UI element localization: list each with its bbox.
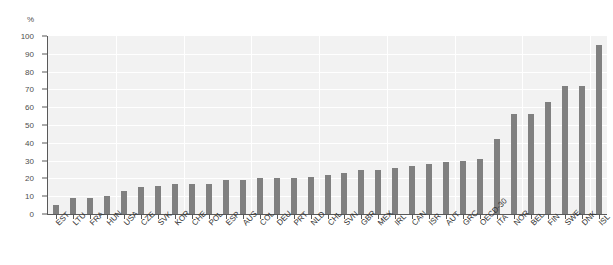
bar-esp[interactable]: [223, 180, 229, 214]
y-axis-tick-label: 20: [25, 174, 34, 183]
bar-chart: % 0102030405060708090100 ESTLTUFRAHUNUSA…: [0, 0, 613, 265]
bar-mex[interactable]: [375, 170, 381, 215]
bar-col[interactable]: [257, 178, 263, 214]
bar-bel[interactable]: [528, 114, 534, 214]
bar-can[interactable]: [409, 166, 415, 214]
bar-svn[interactable]: [341, 173, 347, 214]
bar-aut[interactable]: [443, 162, 449, 214]
y-axis-tick-label: 100: [21, 32, 34, 41]
bar-aus[interactable]: [240, 180, 246, 214]
bar-nor[interactable]: [511, 114, 517, 214]
bar-grc[interactable]: [460, 161, 466, 214]
y-axis-tick-label: 80: [25, 67, 34, 76]
y-axis-tick-label: 10: [25, 192, 34, 201]
bar-pol[interactable]: [206, 184, 212, 214]
bars-layer: [48, 36, 607, 214]
bar-hun[interactable]: [104, 196, 110, 214]
y-axis-tick-label: 50: [25, 121, 34, 130]
bar-che[interactable]: [189, 184, 195, 214]
bar-prt[interactable]: [291, 178, 297, 214]
bar-svk[interactable]: [155, 186, 161, 214]
bar-usa[interactable]: [121, 191, 127, 214]
y-axis-tick-label: 0: [30, 210, 34, 219]
bar-chl[interactable]: [325, 175, 331, 214]
plot-area: [48, 36, 607, 214]
y-axis-tick-label: 70: [25, 85, 34, 94]
bar-cze[interactable]: [138, 187, 144, 214]
bar-nld[interactable]: [308, 177, 314, 214]
bar-isl[interactable]: [596, 45, 602, 214]
bar-isr[interactable]: [426, 164, 432, 214]
bar-fra[interactable]: [87, 198, 93, 214]
bar-fin[interactable]: [545, 102, 551, 214]
bar-swe[interactable]: [562, 86, 568, 214]
y-axis-tick-label: 60: [25, 103, 34, 112]
bar-dnk[interactable]: [579, 86, 585, 214]
bar-kor[interactable]: [172, 184, 178, 214]
bar-gbr[interactable]: [358, 170, 364, 215]
y-axis-tick-label: 90: [25, 49, 34, 58]
bar-est[interactable]: [53, 205, 59, 214]
y-axis-tick-label: 40: [25, 138, 34, 147]
y-axis: 0102030405060708090100: [0, 0, 48, 265]
bar-deu[interactable]: [274, 178, 280, 214]
x-axis-labels: ESTLTUFRAHUNUSACZESVKKORCHEPOLESPAUSCOLD…: [48, 221, 607, 265]
bar-irl[interactable]: [392, 168, 398, 214]
y-axis-tick-label: 30: [25, 156, 34, 165]
bar-ltu[interactable]: [70, 198, 76, 214]
bar-oecd-30[interactable]: [477, 159, 483, 214]
